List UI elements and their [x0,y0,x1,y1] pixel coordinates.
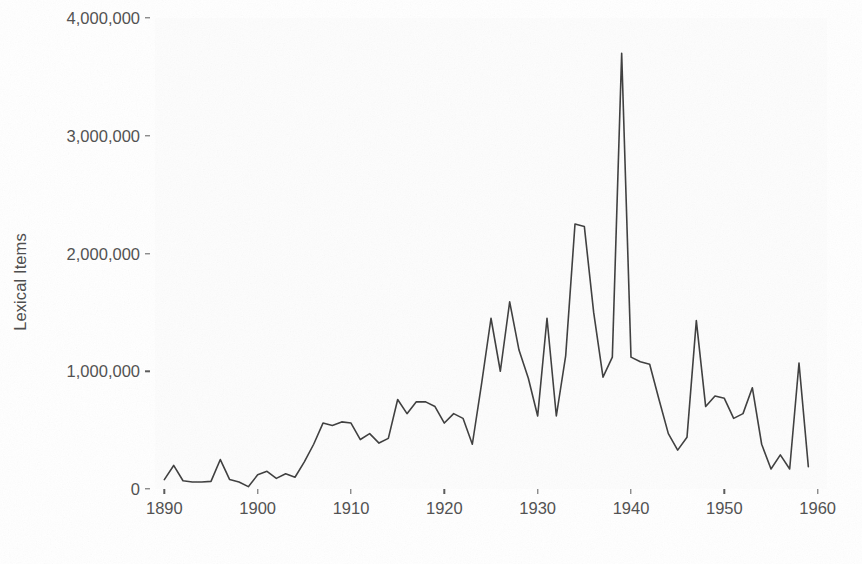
x-tick-mark [724,489,725,494]
x-tick-mark [630,489,631,494]
chart-figure: Lexical Items 01,000,0002,000,0003,000,0… [0,0,862,564]
x-tick-label: 1910 [333,499,370,518]
x-tick-mark [817,489,818,494]
x-tick-label: 1950 [706,499,743,518]
x-tick-label: 1940 [613,499,650,518]
x-tick-label: 1890 [146,499,183,518]
x-axis-tick-labels: 18901900191019201930194019501960 [0,0,862,564]
x-tick-mark [257,489,258,494]
x-tick-mark [537,489,538,494]
x-tick-mark [444,489,445,494]
x-tick-label: 1930 [519,499,556,518]
x-tick-mark [164,489,165,494]
x-tick-label: 1900 [239,499,276,518]
x-tick-label: 1960 [799,499,836,518]
x-tick-label: 1920 [426,499,463,518]
x-tick-mark [350,489,351,494]
